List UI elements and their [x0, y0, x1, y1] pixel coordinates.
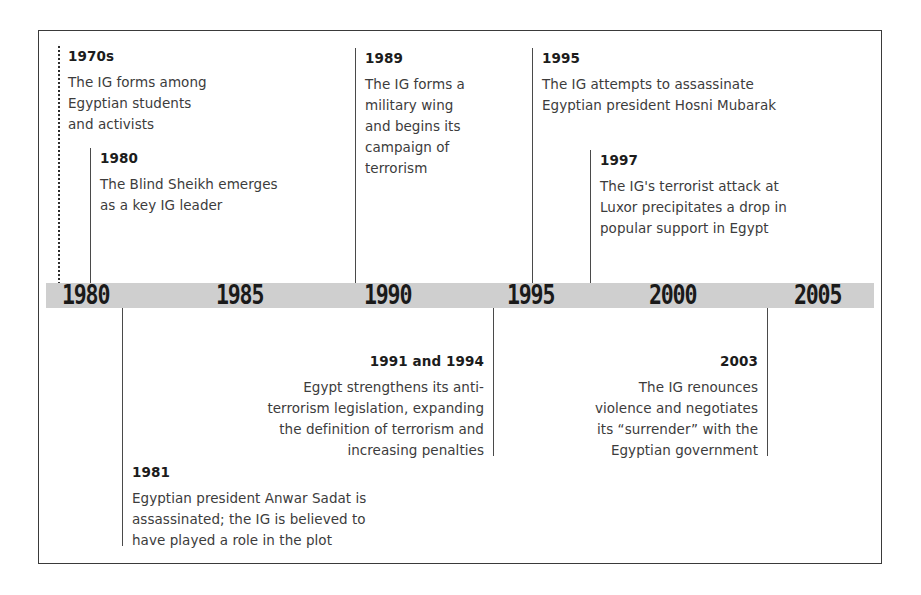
timeline-figure: 1980 1985 1990 1995 2000 2005 1970s The …	[0, 0, 921, 595]
axis-tick-2000: 2000	[649, 278, 696, 311]
event-description: The IG attempts to assassinate Egyptian …	[542, 74, 852, 116]
event-year-label: 1997	[600, 150, 880, 170]
event-description: Egypt strengthens its anti- terrorism le…	[203, 377, 484, 461]
event-description: The IG forms a military wing and begins …	[365, 74, 535, 179]
connector-rule-1991-1994	[493, 288, 494, 456]
timeline-event-1997: 1997 The IG's terrorist attack at Luxor …	[600, 150, 880, 239]
event-year-label: 1980	[100, 148, 350, 168]
connector-rule-1997	[590, 150, 591, 304]
event-year-label: 1991 and 1994	[203, 351, 484, 371]
timeline-event-1981: 1981 Egyptian president Anwar Sadat is a…	[132, 462, 462, 551]
connector-rule-1970s	[58, 46, 60, 304]
timeline-event-1970s: 1970s The IG forms among Egyptian studen…	[68, 46, 318, 135]
connector-rule-1981	[122, 288, 123, 546]
timeline-event-2003: 2003 The IG renounces violence and negot…	[588, 351, 758, 461]
timeline-event-1995: 1995 The IG attempts to assassinate Egyp…	[542, 48, 852, 116]
axis-tick-1995: 1995	[507, 278, 554, 311]
event-year-label: 1989	[365, 48, 535, 68]
connector-rule-2003	[767, 288, 768, 456]
axis-tick-1980: 1980	[62, 278, 109, 311]
event-description: Egyptian president Anwar Sadat is assass…	[132, 488, 462, 551]
timeline-event-1989: 1989 The IG forms a military wing and be…	[365, 48, 535, 179]
axis-tick-1990: 1990	[364, 278, 411, 311]
event-description: The IG's terrorist attack at Luxor preci…	[600, 176, 880, 239]
event-description: The IG renounces violence and negotiates…	[588, 377, 758, 461]
axis-tick-2005: 2005	[794, 278, 841, 311]
timeline-event-1991-1994: 1991 and 1994 Egypt strengthens its anti…	[203, 351, 484, 461]
timeline-event-1980: 1980 The Blind Sheikh emerges as a key I…	[100, 148, 350, 216]
event-year-label: 2003	[588, 351, 758, 371]
event-description: The IG forms among Egyptian students and…	[68, 72, 318, 135]
event-description: The Blind Sheikh emerges as a key IG lea…	[100, 174, 350, 216]
timeline-axis-band	[46, 283, 874, 308]
event-year-label: 1981	[132, 462, 462, 482]
axis-tick-1985: 1985	[216, 278, 263, 311]
event-year-label: 1970s	[68, 46, 318, 66]
connector-rule-1989	[355, 48, 356, 304]
event-year-label: 1995	[542, 48, 852, 68]
